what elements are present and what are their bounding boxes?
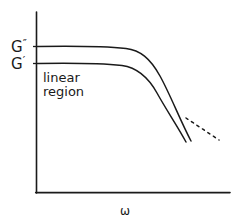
linear-region-annotation: linear region bbox=[43, 70, 84, 99]
linear-region-line2: region bbox=[43, 84, 84, 99]
axis-lines bbox=[36, 12, 230, 193]
y-axis-labels: G″ G′ bbox=[11, 37, 27, 73]
storage-modulus-label: G′ bbox=[11, 54, 26, 73]
extrapolation-dashed-line bbox=[186, 118, 219, 140]
loss-modulus-label-prime: ″ bbox=[23, 37, 27, 50]
storage-modulus-label-prime: ′ bbox=[23, 54, 26, 67]
plot-canvas: G″ G′ linear region ω bbox=[0, 0, 236, 223]
linear-region-line1: linear bbox=[43, 70, 80, 85]
loss-modulus-label-base: G bbox=[11, 38, 23, 56]
x-axis-label: ω bbox=[120, 204, 130, 218]
rheology-modulus-sketch: G″ G′ linear region ω bbox=[0, 0, 236, 223]
storage-modulus-label-base: G bbox=[11, 55, 23, 73]
